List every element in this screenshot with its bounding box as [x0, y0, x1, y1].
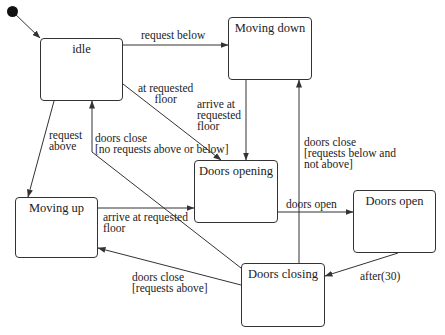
label-after-30: after(30) — [360, 271, 400, 282]
state-label: Doors opening — [195, 164, 277, 179]
label-request-below: request below — [141, 30, 205, 41]
state-label: Moving up — [16, 201, 97, 216]
state-moving-down[interactable]: Moving down — [228, 17, 312, 80]
state-label: Doors closing — [242, 267, 324, 282]
initial-state-dot — [7, 6, 18, 17]
label-doors-open: doors open — [286, 199, 337, 210]
label-request-above: request above — [49, 130, 82, 152]
initial-transition-arrow — [13, 12, 40, 38]
state-moving-up[interactable]: Moving up — [15, 197, 98, 258]
label-doors-close-no-requests: doors close [no requests above or below] — [95, 133, 229, 155]
state-doors-closing[interactable]: Doors closing — [241, 263, 325, 327]
state-doors-opening[interactable]: Doors opening — [194, 160, 278, 223]
label-arrive-from-down: arrive at requested floor — [197, 99, 241, 132]
label-at-requested-floor: at requested floor — [138, 83, 193, 105]
label-doors-close-requests-above: doors close [requests above] — [132, 272, 208, 294]
label-doors-close-requests-below: doors close [requests below and not abov… — [304, 137, 396, 170]
state-label: Moving down — [229, 21, 311, 36]
state-idle[interactable]: idle — [40, 38, 123, 101]
state-doors-open[interactable]: Doors open — [353, 190, 436, 253]
state-label: idle — [41, 42, 122, 57]
label-arrive-from-up: arrive at requested floor — [103, 212, 188, 234]
state-label: Doors open — [354, 194, 435, 209]
